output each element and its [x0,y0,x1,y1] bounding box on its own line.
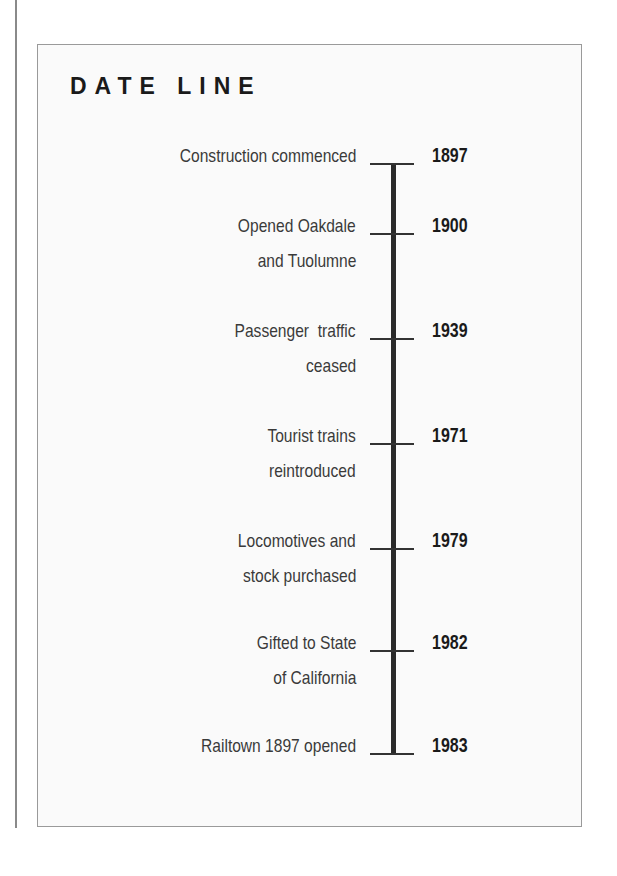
event-year-text: 1983 [432,734,468,757]
event-label-line: Locomotives and [238,523,356,558]
event-label-line: and Tuolumne [257,243,356,278]
timeline-tick [370,548,414,550]
timeline-tick [370,443,414,445]
event-year: 1979 [432,529,477,552]
timeline-tick [370,338,414,340]
event-year: 1983 [432,734,477,757]
event-year-text: 1971 [432,424,468,447]
event-year: 1897 [432,144,477,167]
event-label-line: reintroduced [269,453,356,488]
margin-rule [15,0,17,828]
event-label-line: Railtown 1897 opened [201,728,356,763]
timeline-spine [391,164,396,754]
event-label-line: of California [273,660,356,695]
panel-title: DATE LINE [70,73,262,100]
event-label-line: Construction commenced [179,138,356,173]
timeline-tick [370,650,414,652]
event-label: Construction commenced [96,138,356,173]
event-label: Tourist trainsreintroduced [96,418,356,488]
event-year-text: 1939 [432,319,468,342]
event-label: Gifted to Stateof California [96,625,356,695]
timeline-tick [370,753,414,755]
event-label: Railtown 1897 opened [96,728,356,763]
event-year-text: 1897 [432,144,468,167]
event-label-line: Tourist trains [268,418,356,453]
event-label-line: ceased [306,348,356,383]
timeline-tick [370,163,414,165]
event-label: Locomotives andstock purchased [96,523,356,593]
event-label-line: Gifted to State [256,625,356,660]
event-year: 1971 [432,424,477,447]
event-label: Passenger trafficceased [96,313,356,383]
event-year-text: 1982 [432,631,468,654]
event-label-line: Opened Oakdale [238,208,356,243]
event-year: 1982 [432,631,477,654]
event-year: 1900 [432,214,477,237]
event-label: Opened Oakdaleand Tuolumne [96,208,356,278]
event-label-line: Passenger traffic [235,313,356,348]
timeline-tick [370,233,414,235]
event-year-text: 1900 [432,214,468,237]
event-year-text: 1979 [432,529,468,552]
event-label-line: stock purchased [243,558,356,593]
event-year: 1939 [432,319,477,342]
